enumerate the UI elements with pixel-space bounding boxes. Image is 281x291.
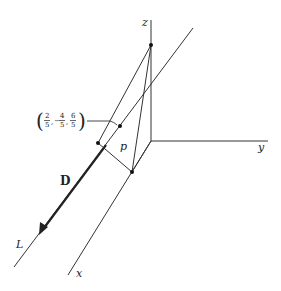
distance-p-label: p: [120, 140, 127, 153]
point-coordinates-label: ( 2 5 , − 4 5 , 6 5 ): [36, 109, 86, 133]
direction-vector-d: [44, 145, 106, 228]
z-axis-label: z: [141, 16, 148, 29]
svg-text:4: 4: [60, 112, 65, 120]
x-axis-label: x: [76, 267, 83, 280]
svg-text:,: ,: [51, 118, 53, 126]
line-l-label: L: [15, 238, 23, 251]
point-on-z-axis: [149, 43, 153, 47]
svg-text:5: 5: [60, 121, 64, 129]
point-foot: [130, 170, 134, 174]
diagram-canvas: z y x L D p ( 2 5 , − 4 5 , 6 5 ): [0, 0, 281, 291]
y-axis-label: y: [257, 141, 265, 154]
svg-text:2: 2: [45, 112, 49, 120]
direction-d-label: D: [60, 174, 70, 188]
svg-text:(: (: [36, 109, 44, 133]
svg-text:5: 5: [71, 121, 75, 129]
line-foot-to-origin: [132, 141, 151, 172]
svg-text:5: 5: [45, 121, 49, 129]
svg-text:,: ,: [66, 118, 68, 126]
svg-text:6: 6: [71, 112, 76, 120]
point-given: [118, 124, 122, 128]
point-on-l: [96, 141, 100, 145]
line-zpoint-to-foot: [132, 45, 151, 172]
svg-text:): ): [78, 109, 86, 133]
label-pointer: [87, 121, 117, 125]
